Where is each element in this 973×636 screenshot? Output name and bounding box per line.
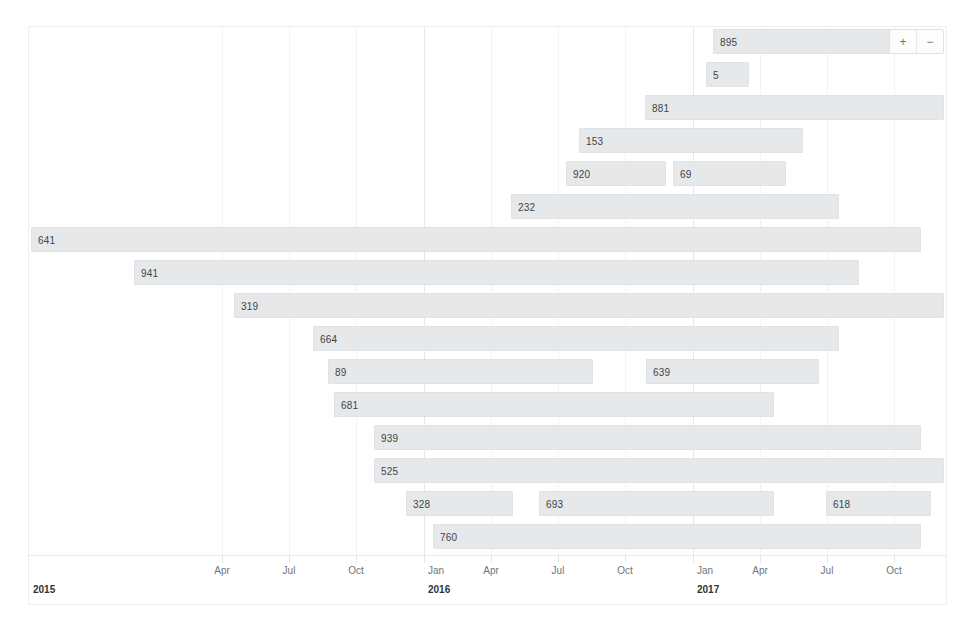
zoom-in-button[interactable]: + xyxy=(890,30,916,53)
gantt-bar[interactable]: 939 xyxy=(374,425,921,450)
axis-tick-mark xyxy=(693,556,694,563)
gantt-bar[interactable]: 920 xyxy=(566,161,666,186)
gantt-bar-label: 618 xyxy=(833,498,850,509)
gantt-bar-label: 941 xyxy=(141,267,158,278)
axis-month-label-Jan-3: Jan xyxy=(428,565,444,576)
axis-tick-mark xyxy=(289,556,290,563)
gantt-bar[interactable]: 664 xyxy=(313,326,839,351)
axis-tick-mark xyxy=(894,556,895,563)
gantt-bar[interactable]: 760 xyxy=(433,524,921,549)
gantt-bar[interactable]: 895 xyxy=(713,29,909,54)
axis-month-label-Jul-5: Jul xyxy=(552,565,565,576)
gantt-bar-label: 5 xyxy=(713,69,719,80)
gantt-bar-label: 895 xyxy=(720,36,737,47)
gantt-bar-label: 69 xyxy=(680,168,692,179)
axis-month-label-Oct-6: Oct xyxy=(617,565,633,576)
gantt-bar[interactable]: 641 xyxy=(31,227,921,252)
gantt-bar-label: 641 xyxy=(38,234,55,245)
gantt-bar-label: 881 xyxy=(652,102,669,113)
axis-tick-mark xyxy=(558,556,559,563)
axis-tick-mark xyxy=(760,556,761,563)
gantt-bar-label: 319 xyxy=(241,300,258,311)
gantt-bar[interactable]: 69 xyxy=(673,161,786,186)
gantt-bar-label: 760 xyxy=(440,531,457,542)
axis-month-label-Jan-7: Jan xyxy=(697,565,713,576)
gantt-bar-label: 525 xyxy=(381,465,398,476)
axis-year-2016: 2016 xyxy=(428,584,450,595)
gantt-bar-label: 664 xyxy=(320,333,337,344)
plot-area: 8955881153920692326419413196648963968193… xyxy=(28,26,947,556)
gantt-bar[interactable]: 941 xyxy=(134,260,859,285)
gantt-bar[interactable]: 328 xyxy=(406,491,513,516)
gantt-bar[interactable]: 232 xyxy=(511,194,839,219)
axis-year-2015: 2015 xyxy=(33,584,55,595)
bars-container: 8955881153920692326419413196648963968193… xyxy=(29,27,946,556)
axis-month-label-Apr-0: Apr xyxy=(214,565,230,576)
gantt-bar[interactable]: 693 xyxy=(539,491,774,516)
gantt-bar-label: 693 xyxy=(546,498,563,509)
axis-tick-mark xyxy=(222,556,223,563)
gantt-bar-label: 232 xyxy=(518,201,535,212)
gantt-bar[interactable]: 89 xyxy=(328,359,593,384)
axis-tick-mark xyxy=(827,556,828,563)
axis-year-2017: 2017 xyxy=(697,584,719,595)
zoom-controls[interactable]: + − xyxy=(889,29,944,54)
gantt-bar-label: 939 xyxy=(381,432,398,443)
gantt-bar-label: 328 xyxy=(413,498,430,509)
gantt-bar[interactable]: 525 xyxy=(374,458,944,483)
gantt-bar-label: 681 xyxy=(341,399,358,410)
gantt-bar[interactable]: 618 xyxy=(826,491,931,516)
gantt-bar[interactable]: 881 xyxy=(645,95,944,120)
axis-month-label-Jul-1: Jul xyxy=(283,565,296,576)
gantt-bar[interactable]: 319 xyxy=(234,293,944,318)
gantt-bar[interactable]: 153 xyxy=(579,128,803,153)
gantt-bar[interactable]: 639 xyxy=(646,359,819,384)
gantt-bar-label: 920 xyxy=(573,168,590,179)
axis-tick-mark xyxy=(625,556,626,563)
axis-month-label-Apr-4: Apr xyxy=(483,565,499,576)
axis-month-label-Oct-10: Oct xyxy=(886,565,902,576)
axis-month-label-Apr-8: Apr xyxy=(752,565,768,576)
gantt-bar-label: 89 xyxy=(335,366,347,377)
axis-month-label-Jul-9: Jul xyxy=(821,565,834,576)
axis-tick-mark xyxy=(491,556,492,563)
axis-tick-mark xyxy=(424,556,425,563)
zoom-out-button[interactable]: − xyxy=(916,30,943,53)
gantt-bar-label: 639 xyxy=(653,366,670,377)
gantt-bar-label: 153 xyxy=(586,135,603,146)
gantt-bar[interactable]: 681 xyxy=(334,392,774,417)
time-axis: AprJulOctJan2016AprJulOctJan2017AprJulOc… xyxy=(28,555,947,605)
axis-month-label-Oct-2: Oct xyxy=(348,565,364,576)
axis-tick-mark xyxy=(356,556,357,563)
gantt-chart: 8955881153920692326419413196648963968193… xyxy=(0,0,973,636)
gantt-bar[interactable]: 5 xyxy=(706,62,749,87)
